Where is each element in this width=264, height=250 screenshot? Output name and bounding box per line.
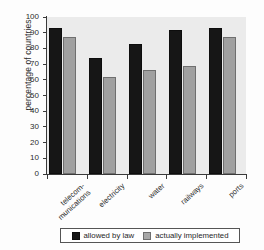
bar-telecom-munications-allowed-by-law [49,28,62,174]
y-axis-tick: 60 [0,75,47,85]
legend-swatch-icon [72,232,80,240]
bar-ports-allowed-by-law [209,28,222,174]
y-axis-tick: 70 [0,59,47,69]
x-axis-label: telecom-munications [44,182,93,228]
y-axis-tick-label: 0 [35,169,39,179]
y-axis-tick-label: 40 [30,106,39,116]
y-axis-tick-label: 50 [30,91,39,101]
y-axis-tick-label: 60 [30,75,39,85]
x-axis-label: water [123,182,166,222]
y-axis-tick: 100 [0,12,47,22]
legend-entry[interactable]: actually implemented [143,231,228,240]
bar-electricity-allowed-by-law [89,58,102,174]
x-axis-tick-mark [127,175,128,179]
legend-swatch-icon [143,232,151,240]
legend-label: allowed by law [84,231,135,240]
bar-water-allowed-by-law [129,44,142,174]
x-axis-label: ports [203,182,246,222]
y-axis-tick: 10 [0,153,47,163]
x-axis-line [46,174,247,175]
y-axis-tick-label: 90 [30,28,39,38]
y-axis-tick-label: 80 [30,43,39,53]
x-axis-label-line: electricity [84,182,127,222]
x-axis-label-line: ports [203,182,246,222]
plot-area [47,17,246,174]
x-axis-label: electricity [84,182,127,222]
bar-telecom-munications-actually-implemented [63,37,76,174]
y-axis-tick: 30 [0,122,47,132]
y-axis-tick-label: 20 [30,138,39,148]
y-axis-tick: 80 [0,43,47,53]
bar-chart-figure: percentage of countries 1009080706050403… [0,0,264,250]
y-axis-tick: 0 [0,169,47,179]
x-axis-tick-mark [47,175,48,179]
x-axis-label-line: railways [163,182,206,222]
legend-entry[interactable]: allowed by law [72,231,135,240]
bar-ports-actually-implemented [223,37,236,174]
x-axis-tick-mark [166,175,167,179]
chart-legend: allowed by lawactually implemented [60,228,240,243]
x-axis-label-line: water [123,182,166,222]
x-axis-tick-mark [206,175,207,179]
x-axis-label: railways [163,182,206,222]
y-axis-tick-label: 10 [30,153,39,163]
y-axis-tick: 50 [0,91,47,101]
bar-electricity-actually-implemented [103,77,116,174]
bar-water-actually-implemented [143,70,156,174]
x-axis-tick-mark [246,175,247,179]
legend-label: actually implemented [155,231,228,240]
bar-railways-actually-implemented [183,66,196,174]
x-axis-tick-mark [87,175,88,179]
y-axis-tick: 40 [0,106,47,116]
y-axis-tick: 20 [0,138,47,148]
bar-railways-allowed-by-law [169,30,182,174]
y-axis-tick: 90 [0,28,47,38]
y-axis-tick-label: 70 [30,59,39,69]
y-axis-tick-label: 100 [26,12,39,22]
bars-container [47,17,246,174]
y-axis-tick-label: 30 [30,122,39,132]
